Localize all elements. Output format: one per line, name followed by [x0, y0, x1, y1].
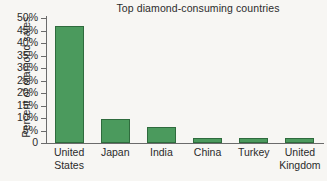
bar	[239, 138, 268, 143]
x-category-label: India	[138, 146, 184, 159]
y-tick-label: 30%	[0, 61, 38, 73]
plot-area	[46, 18, 323, 143]
y-tick-label: 20%	[0, 86, 38, 98]
y-tick-label: 0	[0, 136, 38, 148]
y-tick-mark	[41, 143, 46, 144]
y-tick-label: 50%	[0, 11, 38, 23]
x-category-label: Turkey	[231, 146, 277, 159]
bar	[101, 119, 130, 143]
y-tick-label: 40%	[0, 36, 38, 48]
x-axis-line	[43, 143, 324, 144]
y-tick-label: 10%	[0, 111, 38, 123]
bar	[193, 138, 222, 143]
x-category-label: Japan	[92, 146, 138, 159]
y-tick-label: 45%	[0, 24, 38, 36]
bar	[55, 26, 84, 144]
x-category-label: United States	[46, 146, 92, 171]
bar	[147, 127, 176, 144]
bar-chart: Top diamond-consuming countries Percent …	[0, 0, 327, 181]
y-tick-label: 15%	[0, 99, 38, 111]
y-tick-label: 35%	[0, 49, 38, 61]
y-tick-label: 5%	[0, 124, 38, 136]
x-category-label: China	[185, 146, 231, 159]
x-category-label: United Kingdom	[277, 146, 323, 171]
chart-title: Top diamond-consuming countries	[78, 2, 318, 14]
y-tick-label: 25%	[0, 74, 38, 86]
bar	[285, 138, 314, 143]
